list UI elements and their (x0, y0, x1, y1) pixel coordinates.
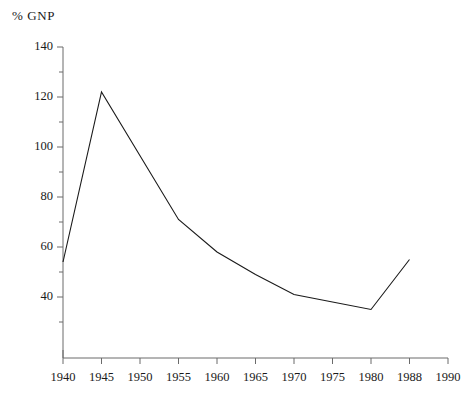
axis-lines (63, 47, 448, 358)
x-axis-tick-label: 1970 (274, 370, 314, 385)
x-axis-tick-label: 1988 (390, 370, 430, 385)
y-axis-tick-label: 140 (21, 39, 53, 54)
x-axis-tick-label: 1945 (82, 370, 122, 385)
y-axis-tick-label: 120 (21, 89, 53, 104)
y-axis-tick-label: 100 (21, 139, 53, 154)
y-axis-ticks (57, 47, 63, 322)
x-axis-tick-label: 1955 (159, 370, 199, 385)
y-axis-tick-label: 80 (21, 189, 53, 204)
x-axis-tick-label: 1990 (428, 370, 468, 385)
plot-area (0, 0, 476, 403)
x-axis-tick-label: 1960 (197, 370, 237, 385)
x-axis-tick-label: 1965 (236, 370, 276, 385)
x-axis-ticks (63, 350, 448, 364)
x-axis-tick-label: 1950 (120, 370, 160, 385)
x-axis-tick-label: 1980 (351, 370, 391, 385)
y-axis-tick-label: 60 (21, 239, 53, 254)
data-series-line (63, 92, 410, 310)
y-axis-tick-label: 40 (21, 289, 53, 304)
x-axis-tick-label: 1975 (313, 370, 353, 385)
x-axis-tick-label: 1940 (43, 370, 83, 385)
gnp-line-chart: % GNP 140120100806040 194019451950195519… (0, 0, 476, 403)
